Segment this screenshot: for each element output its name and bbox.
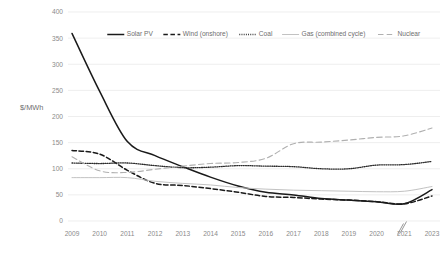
y-tick-200: 200 (52, 113, 63, 120)
x-tick-2013: 2013 (175, 230, 190, 237)
series-line-coal (72, 161, 432, 169)
x-tick-2014: 2014 (203, 230, 218, 237)
legend-label: Coal (259, 30, 273, 37)
data-series-group (72, 33, 432, 204)
x-tick-2018: 2018 (314, 230, 329, 237)
x-tick-2010: 2010 (92, 230, 107, 237)
x-tick-2016: 2016 (259, 230, 274, 237)
legend-label: Wind (onshore) (183, 30, 228, 38)
y-axis-tick-labels: 050100150200250300350400 (52, 8, 63, 224)
y-tick-150: 150 (52, 139, 63, 146)
y-tick-400: 400 (52, 8, 63, 15)
legend-item-solar-pv[interactable]: Solar PV (107, 30, 153, 37)
y-tick-350: 350 (52, 35, 63, 42)
x-tick-2015: 2015 (231, 230, 246, 237)
y-tick-0: 0 (59, 217, 63, 224)
y-axis-title: $/MWh (20, 103, 43, 112)
x-tick-2009: 2009 (65, 230, 80, 237)
x-tick-2017: 2017 (286, 230, 301, 237)
series-line-solar-pv (72, 33, 432, 204)
legend-label: Gas (combined cycle) (302, 30, 366, 38)
x-tick-2020: 2020 (369, 230, 384, 237)
legend-label: Nuclear (397, 30, 421, 37)
y-tick-250: 250 (52, 87, 63, 94)
legend-item-coal[interactable]: Coal (239, 30, 273, 37)
x-tick-2023: 2023 (425, 230, 440, 237)
y-tick-50: 50 (56, 191, 64, 198)
x-tick-2012: 2012 (148, 230, 163, 237)
legend-label: Solar PV (127, 30, 154, 37)
x-tick-2011: 2011 (120, 230, 135, 237)
y-tick-100: 100 (52, 165, 63, 172)
legend-item-wind-onshore[interactable]: Wind (onshore) (163, 30, 228, 38)
legend-item-nuclear[interactable]: Nuclear (378, 30, 421, 37)
chart-container: 050100150200250300350400 200920102011201… (0, 0, 443, 254)
x-tick-2019: 2019 (342, 230, 357, 237)
legend-item-gas-combined-cycle[interactable]: Gas (combined cycle) (282, 30, 365, 38)
y-tick-300: 300 (52, 61, 63, 68)
x-axis-tick-labels: 2009201020112012201320142015201620172018… (65, 230, 440, 237)
lcoe-line-chart: 050100150200250300350400 200920102011201… (0, 0, 443, 254)
chart-legend: Solar PVWind (onshore)CoalGas (combined … (107, 30, 421, 38)
